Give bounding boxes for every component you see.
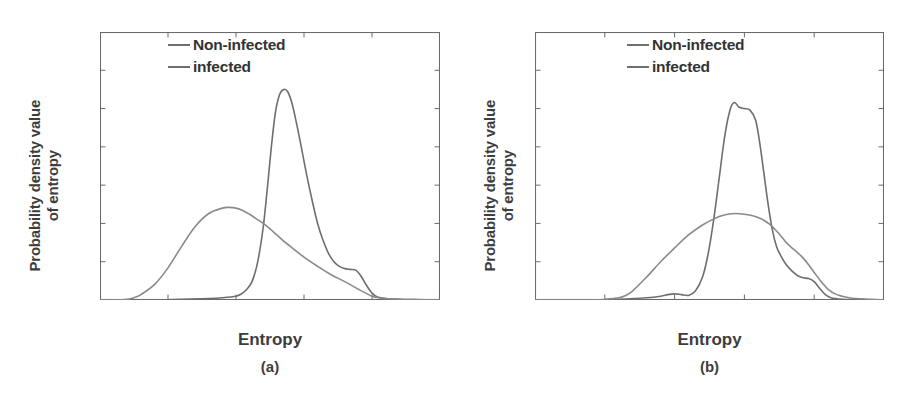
legend-item-infected-a: infected <box>168 56 343 78</box>
figure-entropy-distributions: Probability density value of entropy 00.… <box>0 0 910 395</box>
legend-line-swatch-icon <box>627 66 649 68</box>
legend-b: Non-infected infected <box>627 34 802 78</box>
legend-line-swatch-icon <box>168 66 190 68</box>
x-axis-label-a: Entropy <box>100 330 440 350</box>
legend-label-non-infected: Non-infected <box>193 36 285 54</box>
legend-line-swatch-icon <box>627 44 649 46</box>
panel-caption-a: (a) <box>100 358 440 375</box>
x-axis-label-b: Entropy <box>535 330 884 350</box>
panel-b: Probability density value of entropy 00.… <box>455 0 910 395</box>
panel-a: Probability density value of entropy 00.… <box>0 0 455 395</box>
legend-line-swatch-icon <box>168 44 190 46</box>
legend-item-infected-b: infected <box>627 56 802 78</box>
legend-label-infected: infected <box>193 58 251 76</box>
legend-a: Non-infected infected <box>168 34 343 78</box>
panel-caption-b: (b) <box>535 358 884 375</box>
legend-item-non-infected-b: Non-infected <box>627 34 802 56</box>
y-axis-label-b: Probability density value of entropy <box>481 56 516 316</box>
legend-item-non-infected-a: Non-infected <box>168 34 343 56</box>
legend-label-infected: infected <box>652 58 710 76</box>
legend-label-non-infected: Non-infected <box>652 36 744 54</box>
y-axis-label-a: Probability density value of entropy <box>26 56 61 316</box>
